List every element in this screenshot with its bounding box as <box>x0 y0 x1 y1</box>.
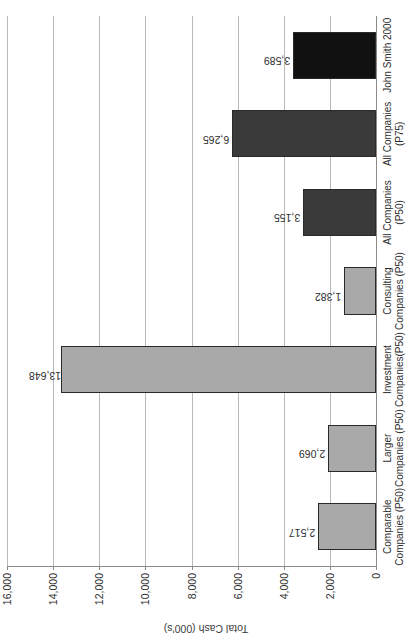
category-axis-label: Comparable Companies (P50) <box>382 488 405 566</box>
value-axis-tick-label: 12,000 <box>93 573 105 605</box>
tick-mark <box>330 566 331 570</box>
tick-mark <box>376 566 377 570</box>
category-axis-label: All Companies (P75) <box>382 102 405 166</box>
value-axis-tick-label: 4,000 <box>278 573 290 599</box>
value-axis-tick-label: 14,000 <box>47 573 59 605</box>
tick-mark <box>99 566 100 570</box>
tick-mark <box>238 566 239 570</box>
bar-value-label: 2,517 <box>289 527 315 539</box>
tick-mark <box>284 566 285 570</box>
bar-value-label: 3,589 <box>264 55 290 67</box>
category-axis-label: John Smith 2000 <box>382 18 394 93</box>
bar[interactable] <box>61 346 376 393</box>
tick-mark <box>53 566 54 570</box>
bar-slot: 3,589John Smith 2000 <box>7 16 376 95</box>
value-axis-tick-label: 10,000 <box>139 573 151 605</box>
bar-value-label: 6,265 <box>202 134 228 146</box>
category-axis-label: All Companies (P50) <box>382 180 405 244</box>
value-axis-tick-label: 8,000 <box>186 573 198 599</box>
tick-mark <box>192 566 193 570</box>
category-axis-label: Investment Companies(P50) <box>382 332 405 407</box>
chart-stage: Total Cash (000's) 02,0004,0006,0008,000… <box>0 0 411 633</box>
bar[interactable] <box>318 503 376 550</box>
tick-mark <box>145 566 146 570</box>
bar[interactable] <box>293 32 376 79</box>
chart-page: Total Cash (000's) 02,0004,0006,0008,000… <box>0 0 411 633</box>
value-axis-tick-label: 0 <box>370 573 382 579</box>
bar[interactable] <box>344 267 376 314</box>
bar-slot: 2,517Comparable Companies (P50) <box>7 487 376 566</box>
value-axis-tick-label: 2,000 <box>324 573 336 599</box>
bar[interactable] <box>232 110 376 157</box>
bar[interactable] <box>328 425 376 472</box>
value-axis-tick-label: 16,000 <box>1 573 13 605</box>
bars-group: 2,517Comparable Companies (P50)2,069Larg… <box>7 16 376 566</box>
category-axis-label: Consulting Companies (P50) <box>382 252 405 330</box>
bar-value-label: 3,155 <box>274 212 300 224</box>
bar-value-label: 2,069 <box>299 448 325 460</box>
bar[interactable] <box>303 189 376 236</box>
bar-slot: 13,648Investment Companies(P50) <box>7 330 376 409</box>
bar-slot: 6,265All Companies (P75) <box>7 95 376 174</box>
bar-slot: 1,382Consulting Companies (P50) <box>7 252 376 331</box>
value-axis-title: Total Cash (000's) <box>163 623 247 633</box>
tick-mark <box>7 566 8 570</box>
bar-slot: 2,069Larger Companies (P50) <box>7 409 376 488</box>
bar-slot: 3,155All Companies (P50) <box>7 173 376 252</box>
bar-value-label: 1,382 <box>315 291 341 303</box>
plot-area: 02,0004,0006,0008,00010,00012,00014,0001… <box>7 16 377 567</box>
bar-value-label: 13,648 <box>29 370 61 382</box>
category-axis-label: Larger Companies (P50) <box>382 409 405 487</box>
value-axis-tick-label: 6,000 <box>232 573 244 599</box>
